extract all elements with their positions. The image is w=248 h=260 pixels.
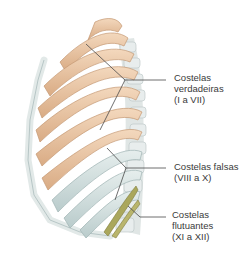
label-false-ribs-line-2: (VIII a X) [174,172,238,183]
label-true-ribs-line-3: (I a VII) [174,94,224,105]
label-true-ribs-line-2: verdadeiras [174,83,224,94]
label-false-ribs: Costelas falsas (VIII a X) [174,161,238,183]
label-true-ribs-line-1: Costelas [174,72,224,83]
label-false-ribs-line-1: Costelas falsas [174,161,238,172]
label-true-ribs: Costelas verdadeiras (I a VII) [174,72,224,105]
label-floating-ribs-line-3: (XI a XII) [172,231,213,242]
label-floating-ribs-line-1: Costelas [172,209,213,220]
label-floating-ribs: Costelas flutuantes (XI a XII) [172,209,213,242]
label-floating-ribs-line-2: flutuantes [172,220,213,231]
